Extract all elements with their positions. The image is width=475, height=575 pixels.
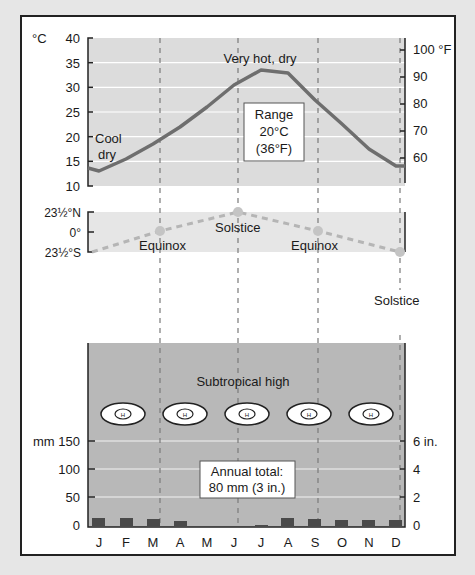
svg-text:M: M [148,535,159,550]
svg-text:60: 60 [413,150,427,165]
high-pressure-icon: H [349,403,393,425]
svg-text:35: 35 [66,56,80,71]
svg-text:J: J [231,535,238,550]
svg-text:6 in.: 6 in. [413,434,438,449]
svg-text:J: J [96,535,103,550]
temp-unit-label: °C [32,31,47,46]
temp-tick-labels: 40 35 30 25 20 15 10 [66,31,80,194]
equinox-label-2: Equinox [291,238,338,253]
svg-text:A: A [284,535,293,550]
svg-text:N: N [364,535,373,550]
svg-text:Range: Range [255,107,293,122]
svg-text:15: 15 [66,154,80,169]
solstice-label-1: Solstice [215,220,261,235]
svg-text:S: S [311,535,320,550]
svg-text:H: H [183,412,187,418]
svg-text:100: 100 [58,462,80,477]
svg-text:2: 2 [413,490,420,505]
high-pressure-icon: H [101,403,145,425]
cool-label: Cool [95,131,122,146]
dry-label: dry [98,147,117,162]
fahrenheit-tick-labels: 100 °F 90 80 70 60 [413,42,452,165]
svg-text:70: 70 [413,123,427,138]
svg-text:10: 10 [66,179,80,194]
range-text: Range 20°C (36°F) [255,107,293,156]
precipitation-panel [88,343,405,527]
svg-text:80: 80 [413,96,427,111]
svg-text:A: A [176,535,185,550]
high-pressure-icon: H [163,403,207,425]
annual-total-text: Annual total: 80 mm (3 in.) [209,464,286,495]
svg-text:80 mm (3 in.): 80 mm (3 in.) [209,480,286,495]
svg-text:0: 0 [73,518,80,533]
svg-text:0: 0 [413,518,420,533]
svg-text:100 °F: 100 °F [413,42,452,57]
svg-text:F: F [122,535,130,550]
subtropical-high-label: Subtropical high [196,374,289,389]
svg-text:H: H [307,412,311,418]
svg-text:30: 30 [66,80,80,95]
svg-text:50: 50 [66,490,80,505]
svg-text:H: H [245,412,249,418]
svg-text:20: 20 [66,130,80,145]
svg-text:0°: 0° [70,226,82,240]
svg-text:20°C: 20°C [259,124,288,139]
precip-unit-label: mm 150 [33,434,80,449]
svg-text:M: M [202,535,213,550]
solstice-label-2: Solstice [374,293,420,308]
svg-text:90: 90 [413,69,427,84]
svg-text:J: J [258,535,265,550]
svg-text:H: H [369,412,373,418]
sun-tick-labels: 23½°N 0° 23½°S [44,206,81,260]
svg-text:23½°N: 23½°N [44,206,81,220]
svg-text:H: H [121,412,125,418]
inch-tick-labels: 6 in. 4 2 0 [413,434,438,533]
high-pressure-icon: H [287,403,331,425]
svg-text:D: D [391,535,400,550]
month-labels: J F M A M J J A S O N D [96,535,401,550]
high-pressure-icon: H [225,403,269,425]
svg-text:4: 4 [413,462,420,477]
svg-text:40: 40 [66,31,80,46]
equinox-label-1: Equinox [139,238,186,253]
precip-tick-labels: 100 50 0 [58,462,80,533]
svg-text:O: O [337,535,347,550]
svg-text:23½°S: 23½°S [45,246,81,260]
svg-text:(36°F): (36°F) [256,141,292,156]
very-hot-label: Very hot, dry [224,51,297,66]
svg-text:Annual total:: Annual total: [211,464,283,479]
climate-chart: °C 40 35 30 25 20 15 10 100 °F 90 80 70 … [0,0,475,575]
svg-text:25: 25 [66,105,80,120]
